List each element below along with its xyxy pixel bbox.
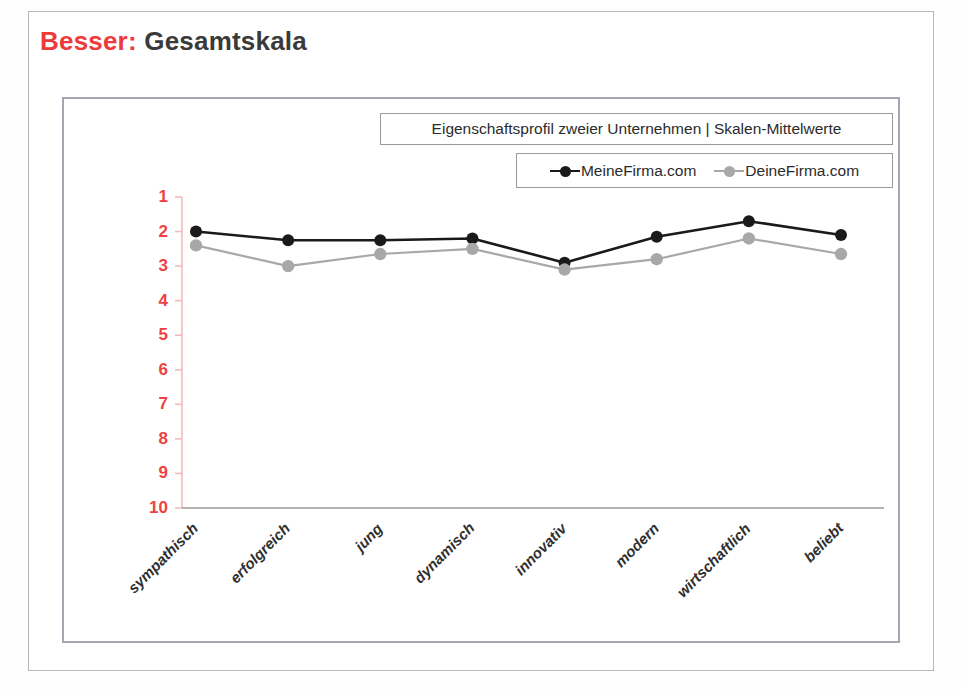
legend-item-meinefirma: MeineFirma.com [550, 163, 696, 179]
y-axis-tick-label: 10 [134, 499, 168, 516]
legend-label-meinefirma: MeineFirma.com [581, 163, 696, 179]
y-axis-tick-label: 1 [134, 188, 168, 205]
y-axis-tick-label: 8 [134, 430, 168, 447]
y-axis-tick-label: 2 [134, 223, 168, 240]
y-axis-tick-label: 6 [134, 361, 168, 378]
title-main: Gesamtskala [144, 26, 307, 56]
legend-swatch-deinefirma [714, 165, 744, 177]
y-axis-tick-label: 7 [134, 395, 168, 412]
legend-label-deinefirma: DeineFirma.com [745, 163, 859, 179]
chart-legend: MeineFirma.com DeineFirma.com [516, 153, 893, 188]
y-axis-tick-label: 4 [134, 292, 168, 309]
page-title: Besser: Gesamtskala [40, 26, 307, 57]
slide-canvas: Besser: Gesamtskala 12345678910 sympathi… [0, 0, 964, 690]
y-axis-tick-label: 5 [134, 326, 168, 343]
legend-item-deinefirma: DeineFirma.com [714, 163, 859, 179]
chart-title-text: Eigenschaftsprofil zweier Unternehmen | … [432, 120, 842, 138]
legend-swatch-meinefirma [550, 165, 580, 177]
y-axis-tick-label: 9 [134, 464, 168, 481]
chart-title-box: Eigenschaftsprofil zweier Unternehmen | … [380, 113, 893, 145]
title-prefix: Besser: [40, 26, 137, 56]
y-axis-tick-label: 3 [134, 257, 168, 274]
